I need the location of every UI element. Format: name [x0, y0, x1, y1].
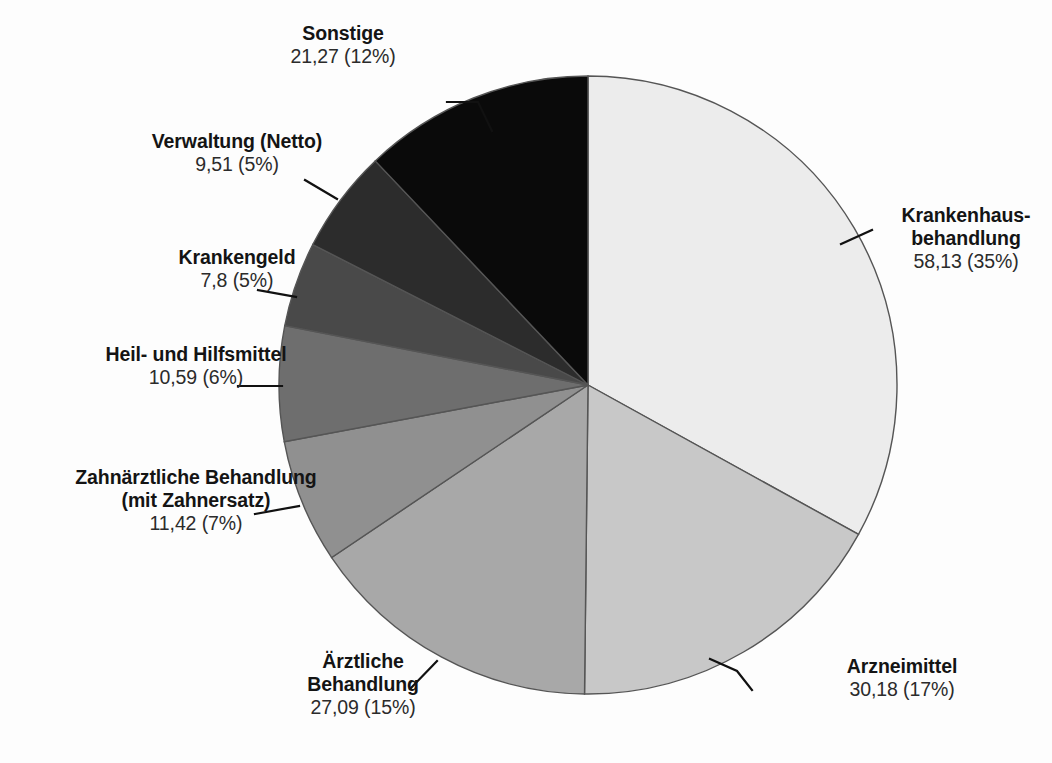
slice-label-arzneimittel-name: Arzneimittel	[762, 655, 1042, 678]
slice-label-heil-und-hilfsmittel-value: 10,59 (6%)	[30, 366, 362, 389]
slice-label-krankenhaus-name-line2: behandlung	[880, 227, 1052, 250]
slice-label-verwaltung-name: Verwaltung (Netto)	[112, 130, 362, 153]
slice-label-sonstige-value: 21,27 (12%)	[218, 45, 468, 68]
slice-label-aerztliche-name-line1: Ärztliche	[322, 650, 403, 672]
slice-label-aerztliche: Ärztliche Behandlung 27,09 (15%)	[256, 650, 470, 719]
slice-label-krankenhaus-value: 58,13 (35%)	[880, 250, 1052, 273]
slice-label-aerztliche-name-line2: Behandlung	[256, 673, 470, 696]
slice-label-zahnaerztliche-name-line2: (mit Zahnersatz)	[0, 489, 392, 512]
slice-label-sonstige-name: Sonstige	[218, 22, 468, 45]
slice-label-heil-und-hilfsmittel: Heil- und Hilfsmittel 10,59 (6%)	[30, 343, 362, 389]
slice-label-zahnaerztliche: Zahnärztliche Behandlung (mit Zahnersatz…	[0, 466, 392, 535]
slice-label-zahnaerztliche-name: Zahnärztliche Behandlung (mit Zahnersatz…	[0, 466, 392, 512]
slice-label-krankenhaus-name: Krankenhaus- behandlung	[880, 204, 1052, 250]
slice-label-arzneimittel-value: 30,18 (17%)	[762, 678, 1042, 701]
pie-slice-group	[279, 76, 897, 694]
slice-label-sonstige: Sonstige 21,27 (12%)	[218, 22, 468, 68]
slice-label-krankengeld: Krankengeld 7,8 (5%)	[112, 246, 362, 292]
leader-line-verwaltung	[305, 180, 337, 199]
slice-label-verwaltung-value: 9,51 (5%)	[112, 153, 362, 176]
slice-label-arzneimittel: Arzneimittel 30,18 (17%)	[762, 655, 1042, 701]
slice-label-zahnaerztliche-name-line1: Zahnärztliche Behandlung	[75, 466, 316, 488]
slice-label-zahnaerztliche-value: 11,42 (7%)	[0, 512, 392, 535]
slice-label-heil-und-hilfsmittel-name: Heil- und Hilfsmittel	[30, 343, 362, 366]
slice-label-krankenhaus: Krankenhaus- behandlung 58,13 (35%)	[880, 204, 1052, 273]
pie-chart-figure: Sonstige 21,27 (12%) Verwaltung (Netto) …	[0, 0, 1052, 763]
slice-label-krankengeld-value: 7,8 (5%)	[112, 269, 362, 292]
slice-label-krankenhaus-name-line1: Krankenhaus-	[902, 204, 1031, 226]
slice-label-aerztliche-name: Ärztliche Behandlung	[256, 650, 470, 696]
slice-label-verwaltung: Verwaltung (Netto) 9,51 (5%)	[112, 130, 362, 176]
slice-label-krankengeld-name: Krankengeld	[112, 246, 362, 269]
slice-label-aerztliche-value: 27,09 (15%)	[256, 696, 470, 719]
